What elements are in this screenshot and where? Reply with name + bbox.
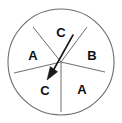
sector-label-right: B [87,48,96,63]
spinner-wheel-graphic: C B A C A [0,0,122,123]
sector-label-bottom-right: A [77,82,87,97]
sector-label-top: C [56,25,66,40]
sector-label-bottom-left: C [40,83,50,98]
spinner-figure: C B A C A [0,0,122,123]
sector-label-left: A [28,48,38,63]
